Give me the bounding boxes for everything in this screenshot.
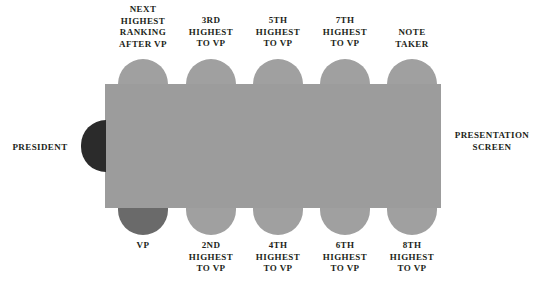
seat-vp-chair [118, 208, 168, 235]
seat-6th-highest-chair [320, 208, 370, 235]
seat-8th-highest-label: 8TH HIGHEST TO VP [369, 240, 455, 275]
seat-3rd-highest-chair [186, 59, 236, 84]
president-label: PRESIDENT [0, 142, 88, 154]
presentation-screen-label: PRESENTATION SCREEN [444, 130, 540, 153]
seat-7th-highest-chair [320, 59, 370, 84]
seat-note-taker-chair [387, 59, 437, 84]
seating-chart-diagram: PRESIDENT PRESENTATION SCREEN NEXT HIGHE… [0, 0, 540, 292]
seat-8th-highest-chair [387, 208, 437, 235]
seat-next-highest-after-vp-chair [118, 59, 168, 84]
seat-4th-highest-chair [253, 208, 303, 235]
seat-5th-highest-chair [253, 59, 303, 84]
conference-table [105, 84, 441, 208]
seat-2nd-highest-chair [186, 208, 236, 235]
seat-note-taker-label: NOTE TAKER [369, 27, 455, 50]
